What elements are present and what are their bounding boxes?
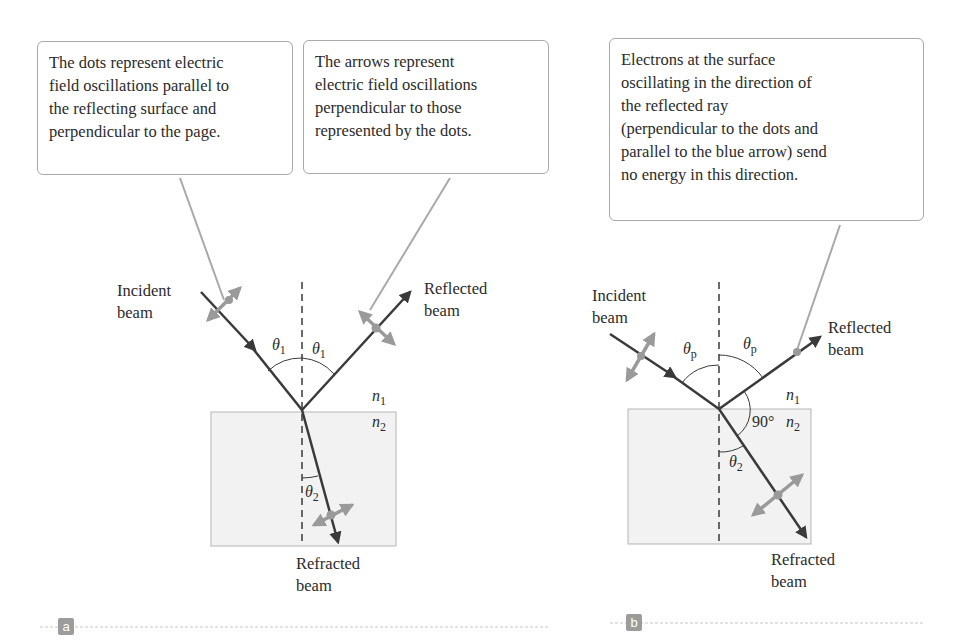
callout-line: perpendicular to those — [315, 96, 537, 119]
angle-thetap-reflected: θp — [743, 335, 757, 357]
callout-line: (perpendicular to the dots and — [621, 117, 912, 140]
callout-line: parallel to the blue arrow) send — [621, 140, 912, 163]
reflected-beam-label: Reflectedbeam — [828, 317, 891, 361]
callout-pointer — [180, 178, 224, 300]
refracted-beam-label: Refractedbeam — [296, 553, 360, 597]
callout-line: Electrons at the surface — [621, 48, 912, 71]
oscillation-dot — [793, 348, 801, 356]
callout-arrows-explanation: The arrows represent electric field osci… — [303, 40, 549, 174]
reflected-beam — [719, 337, 820, 409]
index-n2: n2 — [372, 413, 386, 435]
panel-label-a: a — [58, 618, 74, 635]
index-n1: n1 — [786, 386, 800, 408]
medium-n2 — [211, 412, 396, 546]
callout-line: the reflecting surface and — [49, 97, 281, 120]
index-n1: n1 — [372, 387, 386, 409]
angle-arc — [719, 355, 763, 378]
callout-line: perpendicular to the page. — [49, 120, 281, 143]
callout-line: no energy in this direction. — [621, 163, 912, 186]
callout-line: the reflected ray — [621, 94, 912, 117]
angle-theta2-refracted: θ2 — [729, 453, 743, 475]
right-angle-label: 90° — [752, 413, 774, 431]
reflected-beam-label: Reflectedbeam — [424, 278, 487, 322]
refracted-beam-label: Refractedbeam — [771, 549, 835, 593]
angle-arc — [268, 358, 302, 371]
callout-line: field oscillations parallel to — [49, 74, 281, 97]
callout-line: electric field oscillations — [315, 73, 537, 96]
callout-dots-explanation: The dots represent electric field oscill… — [37, 41, 293, 175]
angle-theta1-incident: θ1 — [272, 336, 286, 358]
callout-line: The arrows represent — [315, 50, 537, 73]
angle-thetap-incident: θp — [683, 340, 697, 362]
incident-beam-label: Incidentbeam — [117, 280, 171, 324]
index-n2: n2 — [786, 413, 800, 435]
callout-electrons-explanation: Electrons at the surface oscillating in … — [609, 38, 924, 221]
panel-a-graphics — [40, 178, 548, 627]
callout-line: oscillating in the direction of — [621, 71, 912, 94]
incident-beam-label: Incidentbeam — [592, 285, 646, 329]
panel-label-b: b — [626, 614, 642, 631]
angle-theta2-refracted: θ2 — [305, 483, 319, 505]
callout-line: represented by the dots. — [315, 119, 537, 142]
angle-arc — [682, 365, 719, 383]
oscillation-symbol — [627, 334, 654, 380]
callout-line: The dots represent electric — [49, 51, 281, 74]
angle-theta1-reflected: θ1 — [312, 340, 326, 362]
